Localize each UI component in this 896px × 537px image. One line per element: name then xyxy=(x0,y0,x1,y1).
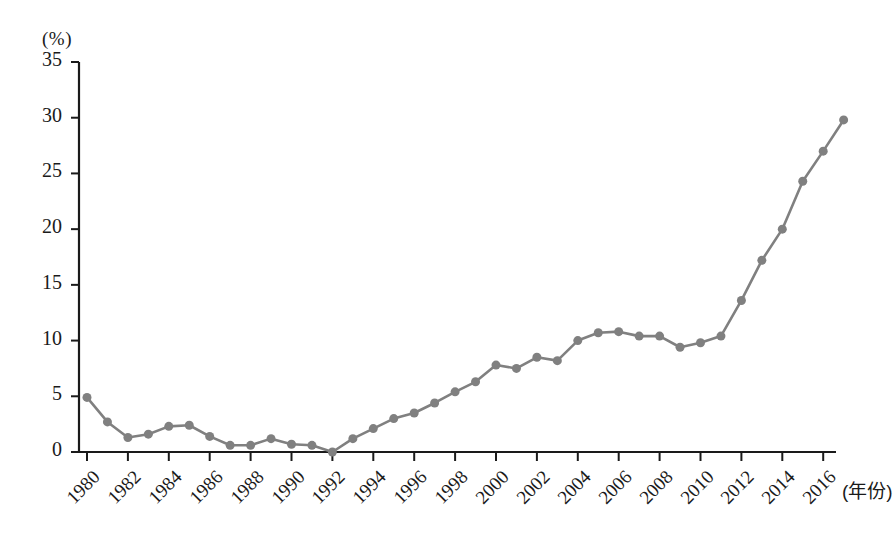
data-point xyxy=(328,448,337,457)
data-point xyxy=(164,422,173,431)
y-axis-tick-label: 10 xyxy=(18,327,62,350)
data-point xyxy=(430,398,439,407)
data-point xyxy=(676,343,685,352)
data-point xyxy=(451,387,460,396)
data-point xyxy=(307,441,316,450)
data-point xyxy=(614,327,623,336)
data-point xyxy=(410,409,419,418)
data-point xyxy=(123,433,132,442)
data-point xyxy=(205,432,214,441)
data-point xyxy=(553,356,562,365)
y-axis-tick-label: 5 xyxy=(18,382,62,405)
y-axis-tick-label: 0 xyxy=(18,438,62,461)
line-chart: (%) (年份) 0510152025303519801982198419861… xyxy=(0,0,896,537)
data-point xyxy=(573,336,582,345)
data-point xyxy=(267,434,276,443)
data-point xyxy=(655,332,664,341)
series-markers xyxy=(83,115,849,456)
data-point xyxy=(594,328,603,337)
series-line xyxy=(87,120,844,452)
data-point xyxy=(737,296,746,305)
data-point xyxy=(226,441,235,450)
data-point xyxy=(389,414,398,423)
data-point xyxy=(144,430,153,439)
data-point xyxy=(471,377,480,386)
data-point xyxy=(757,256,766,265)
y-axis-tick-label: 20 xyxy=(18,215,62,238)
data-point xyxy=(532,353,541,362)
data-point xyxy=(348,434,357,443)
data-point xyxy=(798,177,807,186)
x-axis-title: (年份) xyxy=(842,476,893,503)
chart-canvas xyxy=(0,0,896,537)
data-point xyxy=(635,332,644,341)
data-point xyxy=(778,225,787,234)
data-point xyxy=(83,393,92,402)
y-axis-tick-label: 25 xyxy=(18,159,62,182)
data-point xyxy=(839,115,848,124)
data-point xyxy=(103,417,112,426)
data-point xyxy=(287,440,296,449)
data-point xyxy=(369,424,378,433)
data-point xyxy=(492,361,501,370)
data-point xyxy=(512,364,521,373)
data-point xyxy=(696,338,705,347)
y-axis-tick-label: 30 xyxy=(18,104,62,127)
y-axis-tick-label: 35 xyxy=(18,48,62,71)
y-axis-unit-label: (%) xyxy=(42,28,72,50)
y-axis-tick-label: 15 xyxy=(18,271,62,294)
data-point xyxy=(185,421,194,430)
data-point xyxy=(246,441,255,450)
data-point xyxy=(819,147,828,156)
data-point xyxy=(716,332,725,341)
